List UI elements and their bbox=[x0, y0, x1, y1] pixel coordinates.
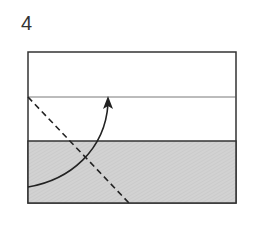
origami-diagram bbox=[0, 0, 263, 228]
colored-flap bbox=[28, 141, 236, 203]
